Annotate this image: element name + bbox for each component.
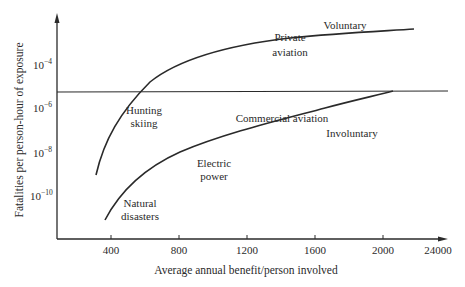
annotation-hunting-skiing: skiing bbox=[131, 117, 158, 129]
x-tick-label: 1200 bbox=[236, 244, 259, 256]
x-axis-label: Average annual benefit/person involved bbox=[154, 264, 338, 277]
x-tick-label: 800 bbox=[171, 244, 188, 256]
annotation-private-aviation: Private bbox=[274, 31, 305, 43]
y-axis-arrow-icon bbox=[55, 13, 60, 23]
x-axis-arrow-icon bbox=[438, 237, 448, 242]
annotation-electric-power: Electric bbox=[197, 157, 231, 169]
annotation-natural-disasters: disasters bbox=[121, 210, 159, 222]
y-tick-label: 10−10 bbox=[30, 188, 53, 202]
x-tick-label: 1600 bbox=[304, 244, 327, 256]
annotation-natural-disasters: Natural bbox=[124, 197, 157, 209]
y-tick-labels: 10−4 10−6 10−8 10−10 bbox=[30, 57, 53, 202]
x-tick-label: 2000 bbox=[372, 244, 395, 256]
axes bbox=[57, 22, 441, 239]
annotation-private-aviation: aviation bbox=[272, 46, 308, 58]
y-axis-label: Fatalities per person-hour of exposure bbox=[13, 42, 26, 217]
voluntary-curve bbox=[96, 29, 414, 175]
x-tick-labels: 400 800 1200 1600 2000 24000 bbox=[103, 244, 453, 256]
annotation-hunting-skiing: Hunting bbox=[126, 104, 163, 116]
y-tick-label: 10−4 bbox=[33, 57, 52, 71]
annotation-commercial-aviation: Commercial aviation bbox=[236, 112, 329, 124]
y-tick-label: 10−8 bbox=[33, 145, 52, 159]
annotation-voluntary: Voluntary bbox=[323, 19, 367, 31]
annotation-electric-power: power bbox=[200, 170, 228, 182]
risk-benefit-chart: 400 800 1200 1600 2000 24000 Average ann… bbox=[0, 0, 465, 287]
x-tick-label: 400 bbox=[103, 244, 120, 256]
annotation-involuntary: Involuntary bbox=[326, 127, 378, 139]
annotations: Voluntary Private aviation Hunting skiin… bbox=[121, 19, 378, 222]
y-tick-label: 10−6 bbox=[33, 100, 52, 114]
x-tick-label: 24000 bbox=[424, 244, 452, 256]
